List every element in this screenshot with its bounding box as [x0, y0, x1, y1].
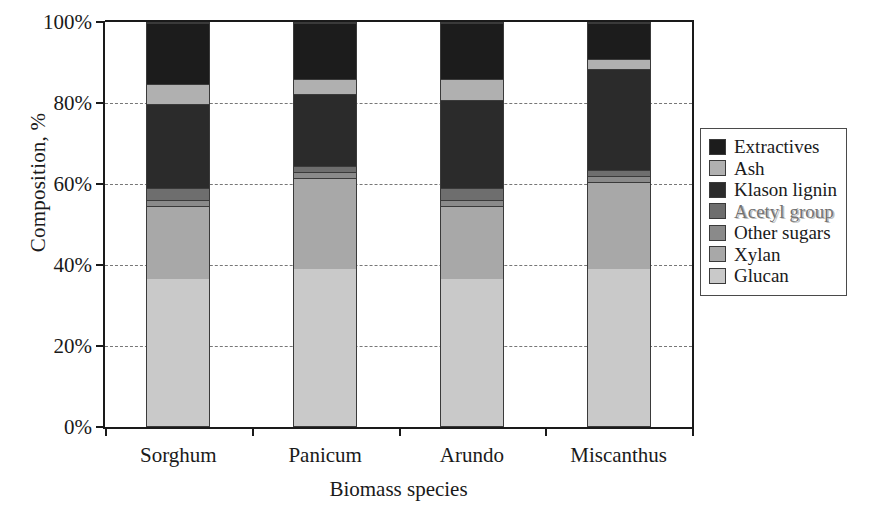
y-tick-mark	[96, 21, 105, 23]
legend-swatch-icon	[709, 203, 726, 219]
bar-segment-ash	[588, 59, 650, 69]
legend-item-glucan[interactable]: Glucan	[709, 265, 837, 287]
bar-segment-glucan	[441, 279, 503, 426]
legend-swatch-icon	[709, 246, 726, 262]
legend-swatch-icon	[709, 268, 726, 284]
bar-segment-xylan	[588, 182, 650, 269]
bar-sorghum[interactable]	[146, 22, 210, 427]
bar-segment-ash	[441, 79, 503, 99]
y-axis-title: Composition, %	[26, 53, 51, 313]
y-tick-mark	[96, 426, 105, 428]
plot-area: 0%20%40%60%80%100% SorghumPanicumArundoM…	[103, 22, 692, 429]
legend-label: Klason lignin	[734, 180, 837, 199]
y-tick-mark	[96, 264, 105, 266]
x-tick-mark	[105, 427, 107, 436]
y-tick-label: 0%	[64, 415, 92, 440]
bar-segment-klason-lignin	[588, 69, 650, 170]
bar-segment-xylan	[294, 178, 356, 269]
legend-label: Acetyl group	[734, 202, 834, 221]
y-tick-label: 100%	[43, 10, 92, 35]
bar-segment-klason-lignin	[147, 104, 209, 189]
bar-segment-acetyl-group	[441, 188, 503, 200]
chart-legend: ExtractivesAshKlason ligninAcetyl groupO…	[700, 128, 847, 296]
legend-swatch-icon	[709, 139, 726, 155]
x-tick-label-sorghum: Sorghum	[140, 443, 217, 468]
bar-segment-extractives	[147, 23, 209, 83]
plot-right-border	[692, 20, 694, 427]
legend-label: Glucan	[734, 266, 789, 285]
legend-item-ash[interactable]: Ash	[709, 158, 837, 180]
bar-segment-extractives	[294, 23, 356, 79]
bar-segment-glucan	[294, 269, 356, 426]
bar-segment-extractives	[441, 23, 503, 79]
x-tick-label-arundo: Arundo	[440, 443, 504, 468]
y-tick-label: 60%	[54, 172, 93, 197]
bar-segment-extractives	[588, 23, 650, 59]
y-tick-mark	[96, 345, 105, 347]
y-tick-label: 20%	[54, 334, 93, 359]
biomass-composition-chart: Composition, % 0%20%40%60%80%100% Sorghu…	[0, 0, 872, 519]
legend-item-extractives[interactable]: Extractives	[709, 136, 837, 158]
x-tick-mark	[545, 427, 547, 436]
y-tick-label: 40%	[54, 253, 93, 278]
bar-arundo[interactable]	[440, 22, 504, 427]
bar-segment-ash	[147, 84, 209, 104]
legend-item-klason-lignin[interactable]: Klason lignin	[709, 179, 837, 201]
bar-miscanthus[interactable]	[587, 22, 651, 427]
x-tick-label-miscanthus: Miscanthus	[570, 443, 667, 468]
bar-segment-acetyl-group	[147, 188, 209, 200]
bar-segment-glucan	[588, 269, 650, 426]
bar-segment-xylan	[147, 206, 209, 279]
bar-segment-klason-lignin	[294, 94, 356, 167]
bar-segment-klason-lignin	[441, 100, 503, 189]
x-tick-mark	[252, 427, 254, 436]
legend-label: Extractives	[734, 137, 819, 156]
x-axis-title: Biomass species	[329, 477, 467, 502]
bar-segment-glucan	[147, 279, 209, 426]
x-tick-mark	[399, 427, 401, 436]
legend-item-other-sugars[interactable]: Other sugars	[709, 222, 837, 244]
legend-swatch-icon	[709, 182, 726, 198]
legend-item-xylan[interactable]: Xylan	[709, 244, 837, 266]
legend-label: Xylan	[734, 245, 780, 264]
legend-item-acetyl-group[interactable]: Acetyl group	[709, 201, 837, 223]
bar-panicum[interactable]	[293, 22, 357, 427]
legend-label: Other sugars	[734, 223, 831, 242]
bar-segment-ash	[294, 79, 356, 93]
x-tick-mark	[692, 427, 694, 436]
legend-label: Ash	[734, 159, 765, 178]
legend-swatch-icon	[709, 225, 726, 241]
bar-segment-xylan	[441, 206, 503, 279]
y-tick-mark	[96, 183, 105, 185]
y-tick-mark	[96, 102, 105, 104]
y-tick-label: 80%	[54, 91, 93, 116]
x-tick-label-panicum: Panicum	[288, 443, 362, 468]
legend-swatch-icon	[709, 160, 726, 176]
